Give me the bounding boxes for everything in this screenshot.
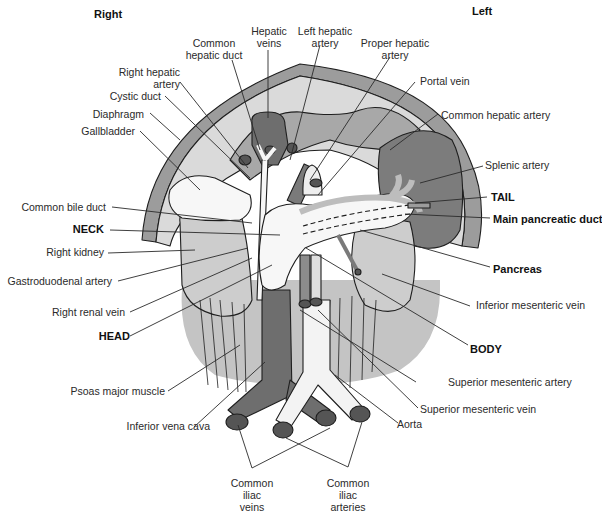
- label-common-iliac-arteries: Common iliac arteries: [327, 477, 370, 513]
- label-diaphragm: Diaphragm: [93, 108, 144, 120]
- label-common-iliac-veins: Common iliac veins: [231, 477, 274, 513]
- label-tail: TAIL: [491, 191, 515, 203]
- label-common-hepatic-duct: Common hepatic duct: [186, 37, 243, 61]
- label-gastroduodenal-artery: Gastroduodenal artery: [8, 275, 112, 287]
- label-superior-mesenteric-vein: Superior mesenteric vein: [420, 403, 536, 415]
- label-gallbladder: Gallbladder: [81, 125, 135, 137]
- label-body: BODY: [470, 343, 502, 355]
- label-right-hepatic-artery: Right hepatic artery: [119, 66, 180, 90]
- label-left-hepatic-artery: Left hepatic artery: [298, 25, 352, 49]
- left-kidney: [352, 220, 415, 312]
- orientation-left-label: Left: [472, 5, 492, 17]
- orientation-right-label: Right: [94, 8, 122, 20]
- label-inferior-mesenteric-vein: Inferior mesenteric vein: [476, 299, 585, 311]
- label-right-renal-vein: Right renal vein: [52, 306, 125, 318]
- pancreas-anatomy-diagram: [0, 0, 602, 517]
- label-right-kidney: Right kidney: [46, 246, 104, 258]
- label-proper-hepatic-artery: Proper hepatic artery: [361, 37, 429, 61]
- label-common-bile-duct: Common bile duct: [21, 201, 106, 213]
- label-superior-mesenteric-artery: Superior mesenteric artery: [448, 376, 572, 388]
- label-portal-vein: Portal vein: [420, 75, 470, 87]
- label-head: HEAD: [99, 330, 130, 342]
- label-splenic-artery: Splenic artery: [485, 159, 549, 171]
- label-hepatic-veins: Hepatic veins: [251, 25, 287, 49]
- label-inferior-vena-cava: Inferior vena cava: [127, 420, 210, 432]
- label-aorta: Aorta: [397, 418, 422, 430]
- gallbladder: [169, 176, 251, 221]
- label-pancreas: Pancreas: [493, 263, 542, 275]
- label-cystic-duct: Cystic duct: [110, 90, 161, 102]
- label-neck: NECK: [73, 223, 104, 235]
- label-psoas-major-muscle: Psoas major muscle: [70, 385, 165, 397]
- label-main-pancreatic-duct: Main pancreatic duct: [493, 213, 602, 225]
- label-common-hepatic-artery: Common hepatic artery: [441, 109, 550, 121]
